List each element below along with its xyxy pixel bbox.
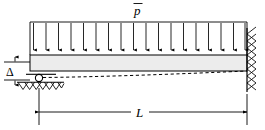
roller-ground-hatching xyxy=(18,82,64,89)
roller-support-group xyxy=(17,74,64,89)
beam-diagram-figure: p xyxy=(0,0,265,130)
length-label: L xyxy=(135,105,143,120)
fixed-support-group xyxy=(247,27,256,92)
wall-hatch-mark xyxy=(247,27,256,34)
deflection-curve xyxy=(43,71,247,78)
beam-body-group xyxy=(30,55,247,71)
ground-hatch-mark xyxy=(31,82,41,89)
ground-hatch-mark xyxy=(18,82,28,89)
settlement-dimension-group: Δ xyxy=(4,57,30,85)
load-label: p xyxy=(133,3,141,18)
ground-hatch-mark xyxy=(51,82,61,89)
load-label-group: p xyxy=(133,3,143,18)
distributed-load-group: p xyxy=(30,3,247,55)
ground-hatch-mark xyxy=(44,82,54,89)
roller-circle xyxy=(35,74,42,81)
beam-diagram-svg: p xyxy=(0,0,265,130)
ground-hatch-mark xyxy=(25,82,35,89)
deflected-shape-group xyxy=(43,71,247,78)
settlement-label: Δ xyxy=(6,65,14,79)
fixed-support-hatching xyxy=(247,27,256,90)
length-dimension-group: L xyxy=(39,88,247,125)
load-arrows xyxy=(34,23,246,50)
beam-body xyxy=(30,55,247,71)
